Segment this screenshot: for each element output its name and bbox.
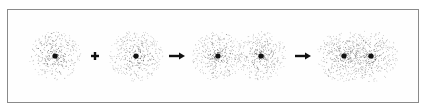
nucleus (258, 53, 263, 58)
bond-formation-diagram (0, 0, 428, 110)
atom-2-electron-cloud (109, 31, 163, 81)
atom-1-electron-cloud (29, 31, 81, 80)
nucleus (215, 53, 220, 58)
arrow-right-icon (169, 53, 185, 60)
arrow-right-icon (295, 53, 311, 60)
nucleus (341, 53, 346, 58)
nucleus (133, 53, 138, 58)
bonded-molecule-electron-cloud (318, 31, 398, 82)
approaching-atoms-electron-cloud (192, 31, 286, 80)
plus-icon (91, 52, 99, 60)
nucleus (52, 53, 57, 58)
nucleus (368, 53, 373, 58)
